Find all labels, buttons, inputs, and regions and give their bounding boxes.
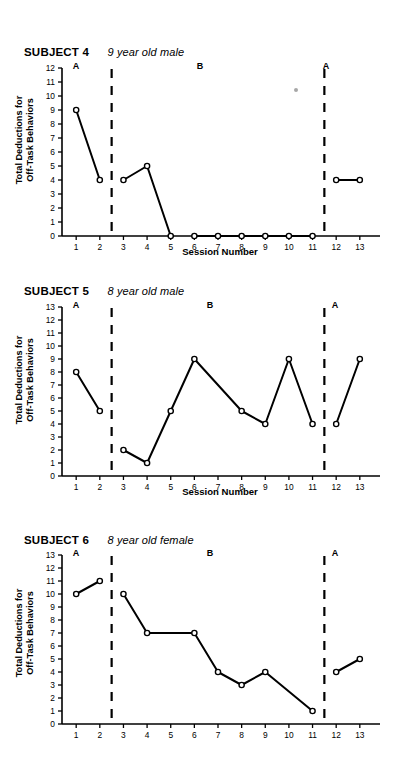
svg-text:9: 9 <box>50 602 55 612</box>
svg-text:6: 6 <box>192 730 197 740</box>
panel-subject-6: SUBJECT 6 8 year old female Total Deduct… <box>0 510 400 759</box>
svg-text:11: 11 <box>46 328 55 338</box>
svg-text:6: 6 <box>50 147 55 157</box>
panel-subject-4: SUBJECT 4 9 year old male Total Deductio… <box>0 0 400 255</box>
svg-text:11: 11 <box>308 242 317 252</box>
svg-text:11: 11 <box>46 576 55 586</box>
svg-text:4: 4 <box>50 419 55 429</box>
svg-text:10: 10 <box>46 589 56 599</box>
svg-text:1: 1 <box>50 706 55 716</box>
svg-text:1: 1 <box>74 482 79 492</box>
svg-text:7: 7 <box>216 482 221 492</box>
panel-3-plot: 01234567891011121312345678910111213 <box>0 510 400 759</box>
svg-text:7: 7 <box>50 380 55 390</box>
svg-text:3: 3 <box>121 730 126 740</box>
svg-text:6: 6 <box>192 242 197 252</box>
svg-text:9: 9 <box>263 482 268 492</box>
svg-text:5: 5 <box>168 730 173 740</box>
svg-text:12: 12 <box>46 563 56 573</box>
svg-text:12: 12 <box>332 730 342 740</box>
svg-text:9: 9 <box>50 105 55 115</box>
svg-text:12: 12 <box>46 315 56 325</box>
svg-text:2: 2 <box>97 242 102 252</box>
svg-text:7: 7 <box>50 133 55 143</box>
svg-text:10: 10 <box>284 482 294 492</box>
svg-text:13: 13 <box>355 242 365 252</box>
svg-text:8: 8 <box>50 367 55 377</box>
svg-text:0: 0 <box>50 471 55 481</box>
svg-text:2: 2 <box>97 730 102 740</box>
svg-text:1: 1 <box>50 217 55 227</box>
svg-text:3: 3 <box>50 432 55 442</box>
svg-text:8: 8 <box>239 482 244 492</box>
svg-text:8: 8 <box>50 615 55 625</box>
svg-text:7: 7 <box>216 730 221 740</box>
svg-text:13: 13 <box>355 730 365 740</box>
svg-text:5: 5 <box>50 406 55 416</box>
svg-text:2: 2 <box>50 203 55 213</box>
svg-text:5: 5 <box>50 654 55 664</box>
svg-text:3: 3 <box>50 189 55 199</box>
svg-text:13: 13 <box>46 550 56 560</box>
svg-text:8: 8 <box>50 119 55 129</box>
svg-text:11: 11 <box>308 482 317 492</box>
svg-text:13: 13 <box>355 482 365 492</box>
svg-text:2: 2 <box>50 693 55 703</box>
svg-text:11: 11 <box>308 730 317 740</box>
svg-text:4: 4 <box>50 667 55 677</box>
svg-text:4: 4 <box>145 482 150 492</box>
svg-text:10: 10 <box>46 341 56 351</box>
svg-text:10: 10 <box>284 242 294 252</box>
svg-text:12: 12 <box>332 242 342 252</box>
svg-text:0: 0 <box>50 231 55 241</box>
svg-text:9: 9 <box>50 354 55 364</box>
svg-text:1: 1 <box>50 458 55 468</box>
svg-text:4: 4 <box>145 730 150 740</box>
svg-text:3: 3 <box>121 242 126 252</box>
svg-text:6: 6 <box>192 482 197 492</box>
svg-text:11: 11 <box>46 77 55 87</box>
svg-text:3: 3 <box>121 482 126 492</box>
svg-text:5: 5 <box>50 161 55 171</box>
svg-text:5: 5 <box>168 242 173 252</box>
svg-text:7: 7 <box>50 628 55 638</box>
svg-text:2: 2 <box>50 445 55 455</box>
svg-text:12: 12 <box>46 63 56 73</box>
svg-text:2: 2 <box>97 482 102 492</box>
svg-text:7: 7 <box>216 242 221 252</box>
panel-subject-5: SUBJECT 5 8 year old male Total Deductio… <box>0 255 400 510</box>
panel-2-plot: 01234567891011121312345678910111213 <box>0 255 400 510</box>
svg-text:9: 9 <box>263 242 268 252</box>
svg-text:4: 4 <box>50 175 55 185</box>
svg-text:0: 0 <box>50 719 55 729</box>
svg-text:12: 12 <box>332 482 342 492</box>
svg-text:1: 1 <box>74 730 79 740</box>
svg-text:13: 13 <box>46 302 56 312</box>
svg-text:5: 5 <box>168 482 173 492</box>
svg-text:1: 1 <box>74 242 79 252</box>
svg-text:6: 6 <box>50 641 55 651</box>
svg-text:9: 9 <box>263 730 268 740</box>
svg-text:4: 4 <box>145 242 150 252</box>
svg-text:8: 8 <box>239 242 244 252</box>
svg-text:10: 10 <box>46 91 56 101</box>
svg-text:10: 10 <box>284 730 294 740</box>
svg-text:8: 8 <box>239 730 244 740</box>
svg-text:6: 6 <box>50 393 55 403</box>
svg-text:3: 3 <box>50 680 55 690</box>
panel-1-plot: 012345678910111212345678910111213 <box>0 0 400 255</box>
